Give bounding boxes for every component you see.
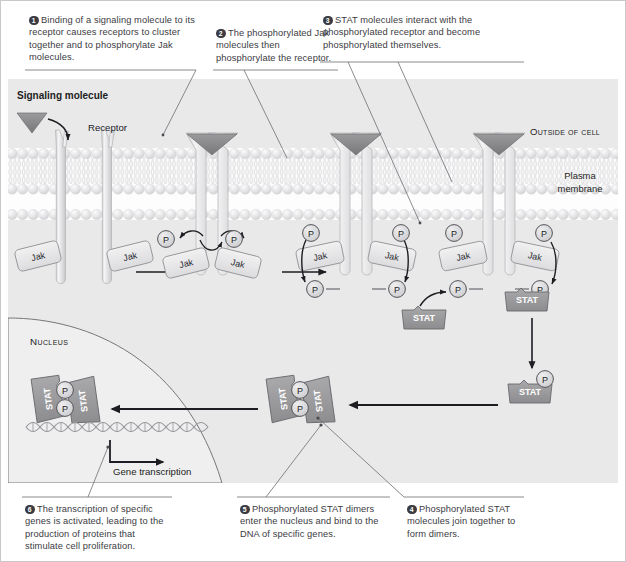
callout-number-1: 1 bbox=[29, 16, 39, 26]
callout-number-2: 2 bbox=[216, 29, 226, 39]
callout-text-2: The phosphorylated Jak molecules then ph… bbox=[216, 28, 331, 63]
phosphate-2: P bbox=[226, 231, 243, 248]
phosphate-12: P bbox=[292, 382, 309, 399]
label-nucleus: Nucleus bbox=[30, 336, 68, 348]
phosphate-4: P bbox=[393, 225, 410, 242]
callout-3: 3STAT molecules interact with the phosph… bbox=[323, 14, 523, 51]
svg-text:P: P bbox=[541, 229, 547, 239]
svg-text:STAT: STAT bbox=[516, 295, 539, 305]
label-plasma-membrane: Plasma membrane bbox=[551, 170, 609, 195]
label-signaling-molecule: Signaling molecule bbox=[17, 90, 108, 102]
svg-text:P: P bbox=[297, 404, 303, 414]
label-receptor: Receptor bbox=[88, 122, 127, 134]
callout-6: 6The transcription of specific genes is … bbox=[25, 503, 175, 553]
phosphate-3: P bbox=[303, 225, 320, 242]
phosphate-9: P bbox=[450, 281, 467, 298]
phosphate-7: P bbox=[446, 225, 463, 242]
svg-text:STAT: STAT bbox=[519, 387, 542, 397]
label-outside-of-cell: Outside of cell bbox=[530, 126, 600, 138]
callout-text-5: Phosphorylated STAT dimers enter the nuc… bbox=[240, 504, 379, 539]
phosphate-13: P bbox=[292, 400, 309, 417]
callout-number-3: 3 bbox=[323, 16, 333, 26]
callout-text-3: STAT molecules interact with the phospho… bbox=[323, 15, 480, 50]
phosphate-8: P bbox=[536, 225, 553, 242]
svg-text:P: P bbox=[394, 285, 400, 295]
phosphate-1: P bbox=[158, 231, 175, 248]
svg-text:P: P bbox=[62, 386, 68, 396]
phosphate-11: P bbox=[537, 371, 554, 388]
callout-number-4: 4 bbox=[407, 505, 417, 515]
phosphate-15: P bbox=[57, 400, 74, 417]
svg-text:P: P bbox=[231, 235, 237, 245]
svg-text:P: P bbox=[308, 229, 314, 239]
svg-text:P: P bbox=[542, 375, 548, 385]
svg-text:P: P bbox=[451, 229, 457, 239]
callout-text-1: Binding of a signaling molecule to its r… bbox=[29, 15, 195, 62]
label-gene-transcription: Gene transcription bbox=[113, 466, 191, 478]
callout-4: 4Phosphorylated STAT molecules join toge… bbox=[407, 503, 522, 540]
svg-text:P: P bbox=[455, 285, 461, 295]
svg-text:P: P bbox=[163, 235, 169, 245]
pathway-svg: Jak Jak Jak bbox=[0, 0, 626, 562]
svg-text:P: P bbox=[398, 229, 404, 239]
svg-text:P: P bbox=[312, 285, 318, 295]
callout-number-6: 6 bbox=[25, 505, 35, 515]
callout-text-4: Phosphorylated STAT molecules join toget… bbox=[407, 504, 515, 539]
phosphate-5: P bbox=[307, 281, 324, 298]
callout-5: 5Phosphorylated STAT dimers enter the nu… bbox=[240, 503, 388, 540]
callout-text-6: The transcription of specific genes is a… bbox=[25, 504, 164, 551]
svg-text:P: P bbox=[62, 404, 68, 414]
callout-2: 2The phosphorylated Jak molecules then p… bbox=[216, 27, 340, 64]
phosphate-6: P bbox=[389, 281, 406, 298]
callout-number-5: 5 bbox=[240, 505, 250, 515]
svg-text:P: P bbox=[297, 386, 303, 396]
svg-text:STAT: STAT bbox=[413, 313, 436, 323]
phosphate-14: P bbox=[57, 382, 74, 399]
plasma-membrane bbox=[7, 148, 622, 220]
diagram-canvas: Jak Jak Jak bbox=[0, 0, 626, 562]
callout-1: 1Binding of a signaling molecule to its … bbox=[29, 14, 197, 64]
